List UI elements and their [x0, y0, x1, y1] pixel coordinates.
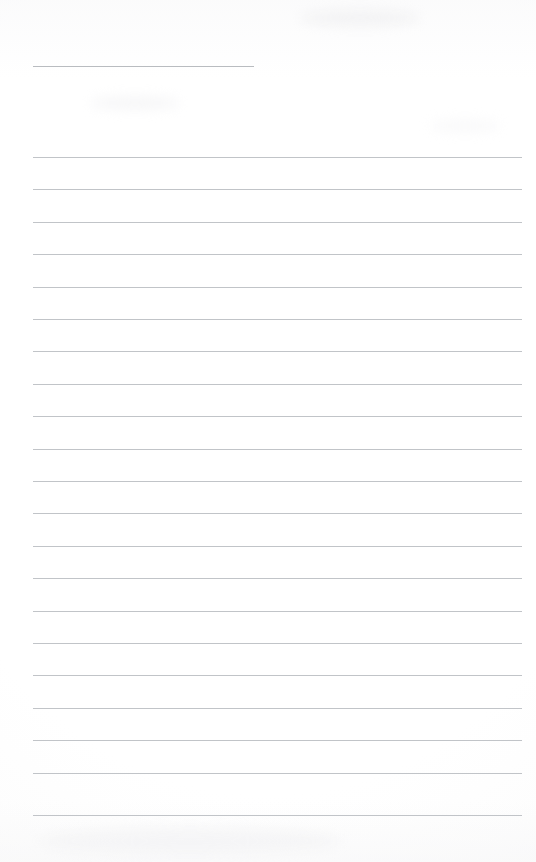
- scan-smudge: [90, 96, 180, 110]
- scan-smudge: [40, 828, 340, 854]
- scan-smudge: [300, 10, 420, 26]
- title-rule: [33, 66, 254, 67]
- body-write-area[interactable]: [33, 128, 522, 818]
- title-write-area[interactable]: [33, 40, 254, 66]
- lined-page: [0, 0, 536, 862]
